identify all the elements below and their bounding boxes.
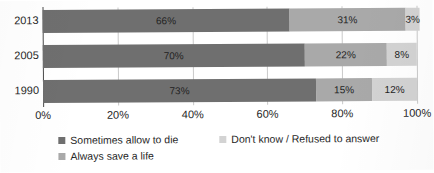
legend-swatch-icon (58, 153, 65, 160)
bar-segment-label: 12% (385, 84, 405, 94)
x-axis-tick-100: 100% (403, 107, 431, 119)
legend-swatch-icon (58, 137, 65, 144)
x-axis-tick-40: 40% (182, 108, 204, 120)
bar-segment-label: 22% (336, 50, 356, 60)
x-axis-tick-20: 20% (107, 109, 129, 121)
bar-segment-2005-sometimes-allow-to-die[interactable]: 70% (43, 43, 305, 68)
bar-segment-1990-dont-know[interactable]: 12% (372, 78, 417, 101)
x-axis-tick-0: 0% (35, 109, 51, 121)
plot-area: 66% 31% 3% 70% 22% 8% 73% (43, 6, 418, 106)
bar-row-1990[interactable]: 73% 15% 12% (43, 78, 417, 103)
x-axis-tick-60: 60% (257, 108, 279, 120)
legend-label: Don't know / Refused to answer (231, 133, 379, 144)
bar-row-2013[interactable]: 66% 31% 3% (43, 8, 417, 33)
chart-figure: 2013 2005 1990 66% 31% 3% 70% (0, 0, 434, 172)
legend-swatch-icon (219, 136, 226, 143)
bar-segment-label: 66% (156, 16, 176, 26)
bar-segment-1990-always-save-a-life[interactable]: 15% (316, 78, 372, 101)
chart-legend: Sometimes allow to die Don't know / Refu… (58, 133, 433, 169)
bar-segment-2013-always-save-a-life[interactable]: 31% (289, 8, 405, 32)
y-axis-label-2013: 2013 (0, 14, 39, 26)
bar-segment-2005-dont-know[interactable]: 8% (387, 43, 417, 66)
bar-segment-label: 8% (395, 49, 410, 59)
bar-segment-label: 70% (164, 51, 184, 61)
y-axis-label-1990: 1990 (0, 84, 39, 96)
y-axis-category-labels: 2013 2005 1990 (0, 8, 39, 106)
legend-item-dont-know-refused-to-answer[interactable]: Don't know / Refused to answer (219, 133, 379, 144)
bar-segment-label: 15% (334, 85, 354, 95)
legend-label: Sometimes allow to die (70, 134, 178, 145)
legend-label: Always save a life (70, 150, 154, 161)
bar-segment-label: 3% (405, 14, 420, 24)
legend-item-sometimes-allow-to-die[interactable]: Sometimes allow to die (58, 134, 178, 145)
bar-segment-label: 73% (170, 86, 190, 96)
x-axis-tick-80: 80% (331, 107, 353, 119)
bar-segment-2013-dont-know[interactable]: 3% (405, 8, 420, 31)
legend-item-always-save-a-life[interactable]: Always save a life (58, 150, 154, 161)
bar-row-2005[interactable]: 70% 22% 8% (43, 43, 417, 68)
y-axis-label-2005: 2005 (0, 49, 39, 61)
bar-segment-1990-sometimes-allow-to-die[interactable]: 73% (43, 78, 316, 103)
bar-segment-2005-always-save-a-life[interactable]: 22% (305, 43, 387, 67)
bar-segment-2013-sometimes-allow-to-die[interactable]: 66% (43, 9, 290, 34)
x-axis-tick-labels: 0% 20% 40% 60% 80% 100% (43, 107, 417, 125)
bar-segment-label: 31% (337, 15, 357, 25)
